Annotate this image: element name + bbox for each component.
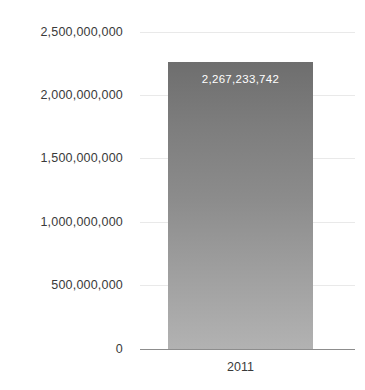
bar-value-label: 2,267,233,742 — [168, 73, 313, 85]
y-axis-tick-label: 1,000,000,000 — [0, 216, 123, 229]
plot-area: 2,267,233,742 — [140, 32, 355, 349]
y-axis-tick-label: 1,500,000,000 — [0, 152, 123, 165]
y-axis-tick-label: 500,000,000 — [0, 279, 123, 292]
bar-chart: 2,267,233,742 2,500,000,000 2,000,000,00… — [0, 0, 365, 390]
y-axis-tick-label: 0 — [0, 343, 123, 356]
x-axis-category-label: 2011 — [168, 360, 313, 374]
y-axis-tick-label: 2,000,000,000 — [0, 89, 123, 102]
bar-2011[interactable]: 2,267,233,742 — [168, 62, 313, 349]
x-axis-line — [140, 349, 355, 350]
y-axis-tick-label: 2,500,000,000 — [0, 26, 123, 39]
